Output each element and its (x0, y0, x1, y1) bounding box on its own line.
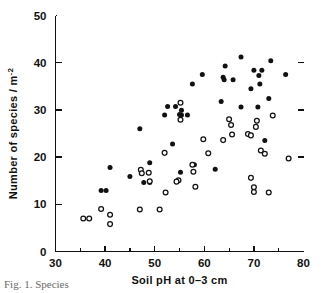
data-point-filled (170, 141, 175, 146)
y-tick-label: 10 (34, 198, 47, 210)
data-point-open (221, 138, 226, 143)
data-point-filled (165, 104, 170, 109)
data-point-filled (257, 81, 262, 86)
data-point-open (157, 207, 162, 212)
data-point-open (162, 150, 167, 155)
x-tick-label: 50 (148, 257, 161, 269)
data-point-open (253, 124, 258, 129)
data-point-open (249, 133, 254, 138)
data-point-filled (108, 165, 113, 170)
data-point-open (270, 113, 275, 118)
data-point-open (266, 190, 271, 195)
data-point-filled (200, 72, 205, 77)
data-point-filled (248, 86, 253, 91)
axis-tick-labels: 30405060708001020304050 (34, 10, 310, 269)
data-point-open (229, 123, 234, 128)
y-tick-label: 30 (34, 104, 47, 116)
data-point-open (178, 100, 183, 105)
data-point-open (99, 207, 104, 212)
data-point-filled (231, 77, 236, 82)
data-point-filled (223, 64, 228, 69)
y-tick-label: 20 (34, 151, 47, 163)
data-point-filled (219, 99, 224, 104)
data-point-filled (213, 167, 218, 172)
data-point-filled (173, 104, 178, 109)
data-point-open (146, 170, 151, 175)
data-point-open (249, 175, 254, 180)
data-point-filled (99, 188, 104, 193)
data-point-filled (266, 96, 271, 101)
axis-spines (56, 16, 304, 252)
axis-ticks (56, 63, 304, 252)
data-point-open (139, 171, 144, 176)
x-tick-label: 40 (99, 257, 112, 269)
y-tick-label: 50 (34, 10, 47, 22)
data-point-open (137, 207, 142, 212)
data-point-open (193, 184, 198, 189)
data-point-filled (104, 188, 109, 193)
data-point-filled (177, 112, 182, 117)
data-points (81, 55, 291, 227)
data-point-open (201, 137, 206, 142)
y-axis-title: Number of species / m-2 (6, 68, 19, 200)
data-point-filled (222, 77, 227, 82)
data-point-open (81, 216, 86, 221)
x-axis-title: Soil pH at 0–3 cm (131, 274, 227, 286)
data-point-open (262, 151, 267, 156)
data-point-open (206, 151, 211, 156)
data-point-open (252, 185, 257, 190)
data-point-open (163, 190, 168, 195)
scatter-plot: 30405060708001020304050 Soil pH at 0–3 c… (0, 0, 321, 293)
data-point-filled (239, 105, 244, 110)
data-point-filled (256, 73, 261, 78)
data-point-filled (262, 138, 267, 143)
data-point-filled (179, 108, 184, 113)
y-tick-label: 0 (40, 246, 46, 258)
x-tick-label: 80 (297, 257, 310, 269)
data-point-open (254, 118, 259, 123)
data-point-filled (137, 126, 142, 131)
data-point-open (87, 216, 92, 221)
data-point-filled (268, 58, 273, 63)
data-point-open (190, 162, 195, 167)
figure-container: 30405060708001020304050 Soil pH at 0–3 c… (0, 0, 321, 293)
data-point-open (174, 179, 179, 184)
caption-fragment: Fig. 1. Species (4, 278, 144, 291)
x-tick-label: 60 (198, 257, 211, 269)
data-point-open (191, 169, 196, 174)
x-tick-label: 30 (49, 257, 62, 269)
data-point-filled (255, 105, 260, 110)
axes-frame (56, 16, 304, 252)
data-point-filled (162, 113, 167, 118)
data-point-open (108, 222, 113, 227)
data-point-open (147, 179, 152, 184)
data-point-open (227, 117, 232, 122)
data-point-filled (141, 180, 146, 185)
data-point-filled (178, 170, 183, 175)
data-point-filled (259, 68, 264, 73)
data-point-filled (239, 55, 244, 60)
data-point-open (252, 190, 257, 195)
data-point-filled (185, 113, 190, 118)
data-point-open (286, 156, 291, 161)
x-tick-label: 70 (248, 257, 261, 269)
data-point-filled (190, 81, 195, 86)
data-point-filled (127, 174, 132, 179)
data-point-open (230, 132, 235, 137)
data-point-filled (147, 160, 152, 165)
data-point-open (178, 117, 183, 122)
data-point-filled (283, 72, 288, 77)
data-point-filled (251, 68, 256, 73)
data-point-open (108, 212, 113, 217)
y-tick-label: 40 (34, 57, 47, 69)
